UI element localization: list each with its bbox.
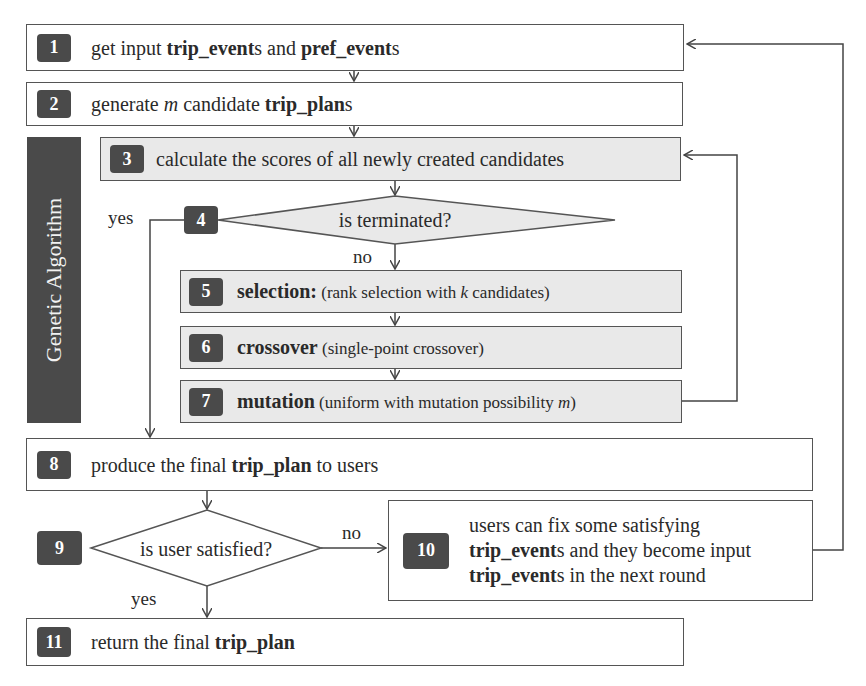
step-5-box: 5 selection: (rank selection with k cand…	[180, 270, 682, 313]
step-7-badge: 7	[189, 388, 223, 416]
step-10-text: users can fix some satisfying trip_event…	[469, 513, 751, 588]
step-3-badge: 3	[110, 145, 144, 173]
step-1-text: get input trip_events and pref_events	[91, 36, 400, 60]
step-7-text: mutation (uniform with mutation possibil…	[237, 389, 576, 415]
step-2-badge: 2	[37, 90, 71, 118]
step-1-box: 1 get input trip_events and pref_events	[26, 24, 684, 71]
step-4-yes-label: yes	[108, 207, 133, 229]
step-5-badge: 5	[189, 278, 223, 306]
step-11-badge: 11	[37, 627, 71, 657]
step-2-box: 2 generate m candidate trip_plans	[26, 82, 683, 126]
step-4-badge: 4	[184, 206, 218, 234]
step-3-box: 3 calculate the scores of all newly crea…	[100, 137, 681, 181]
step-10-box: 10 users can fix some satisfying trip_ev…	[388, 500, 813, 601]
step-9-badge: 9	[37, 531, 82, 565]
step-8-badge: 8	[37, 451, 71, 479]
step-6-badge: 6	[189, 334, 223, 362]
step-8-box: 8 produce the final trip_plan to users	[26, 438, 813, 491]
step-8-text: produce the final trip_plan to users	[91, 453, 378, 477]
step-4-decision-text: is terminated?	[339, 209, 452, 232]
genetic-algorithm-text: Genetic Algorithm	[41, 198, 67, 362]
step-9-no-label: no	[342, 522, 361, 544]
step-6-box: 6 crossover (single-point crossover)	[180, 326, 682, 369]
step-10-badge: 10	[403, 533, 449, 569]
step-5-text: selection: (rank selection with k candid…	[237, 279, 550, 305]
step-9-yes-label: yes	[131, 588, 156, 610]
step-11-text: return the final trip_plan	[91, 630, 295, 654]
step-2-text: generate m candidate trip_plans	[91, 92, 353, 116]
genetic-algorithm-group-label: Genetic Algorithm	[27, 137, 81, 423]
step-6-text: crossover (single-point crossover)	[237, 335, 484, 361]
step-3-text: calculate the scores of all newly create…	[156, 147, 564, 171]
step-4-no-label: no	[353, 246, 372, 268]
step-1-badge: 1	[37, 34, 71, 62]
step-11-box: 11 return the final trip_plan	[26, 618, 684, 666]
step-7-box: 7 mutation (uniform with mutation possib…	[180, 380, 682, 423]
step-9-decision-text: is user satisfied?	[140, 538, 272, 561]
